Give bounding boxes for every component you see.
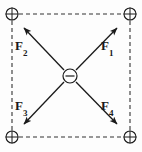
vector-label-F4: F4 [101,99,113,116]
vector-label-F2-base: F [15,38,23,53]
force-diagram-figure: F1 F2 F3 F4 [0,0,142,152]
vector-label-F1-base: F [101,38,109,53]
charge-top-right [124,8,137,21]
charge-bottom-right [124,131,137,144]
charge-top-left [6,8,19,21]
charge-center [63,69,77,83]
vector-label-F1: F1 [101,39,113,56]
vector-label-F4-base: F [101,98,109,113]
vector-label-F3-subscript: 3 [23,108,28,118]
vector-F3-arrow [24,82,64,124]
vector-label-F4-subscript: 4 [109,108,114,118]
charge-bottom-left [6,131,19,144]
force-diagram-canvas [0,0,142,152]
vector-label-F2: F2 [15,39,27,56]
vector-label-F3: F3 [15,99,27,116]
vector-F2-arrow [24,28,64,70]
vector-label-F1-subscript: 1 [109,48,114,58]
vector-label-F2-subscript: 2 [23,48,28,58]
vector-label-F3-base: F [15,98,23,113]
